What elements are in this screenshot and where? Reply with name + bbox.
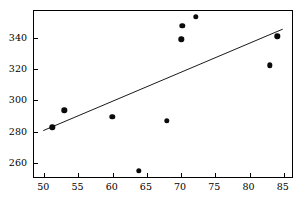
x-tick-label: 75 (208, 181, 220, 192)
y-tick-mark (34, 69, 38, 70)
y-tick-mark (34, 38, 38, 39)
y-tick-label: 320 (0, 63, 27, 74)
plot-area (33, 10, 293, 178)
x-tick-mark (147, 173, 148, 177)
y-tick-mark (34, 132, 38, 133)
x-tick-label: 55 (71, 181, 83, 192)
scatter-chart: 5055606570758085260280300320340 (0, 0, 307, 203)
x-tick-mark (284, 173, 285, 177)
x-tick-mark (250, 173, 251, 177)
y-tick-label: 300 (0, 94, 27, 105)
x-tick-mark (113, 173, 114, 177)
x-tick-label: 80 (242, 181, 254, 192)
x-tick-mark (78, 173, 79, 177)
y-tick-label: 260 (0, 157, 27, 168)
x-tick-label: 60 (106, 181, 118, 192)
y-tick-mark (34, 163, 38, 164)
x-tick-mark (215, 173, 216, 177)
x-tick-mark (181, 173, 182, 177)
x-tick-label: 50 (37, 181, 49, 192)
y-tick-label: 280 (0, 125, 27, 136)
x-tick-label: 65 (140, 181, 152, 192)
x-tick-label: 70 (174, 181, 186, 192)
y-tick-mark (34, 100, 38, 101)
x-tick-mark (44, 173, 45, 177)
y-tick-label: 340 (0, 31, 27, 42)
x-tick-label: 85 (277, 181, 289, 192)
